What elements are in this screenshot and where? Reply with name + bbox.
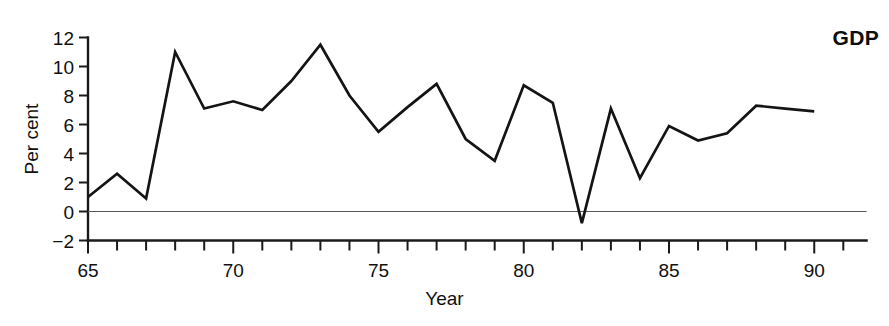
y-axis-tick-labels: −2024681012 (52, 28, 74, 252)
x-tick-label-65: 65 (77, 260, 98, 281)
chart-plot-area: −2024681012 657075808590 (0, 0, 889, 326)
x-axis-tick-labels: 657075808590 (77, 260, 824, 281)
x-tick-label-90: 90 (804, 260, 825, 281)
y-tick-label-6: 6 (63, 115, 74, 136)
x-axis-title: Year (0, 288, 889, 310)
y-tick-label--2: −2 (52, 231, 74, 252)
y-tick-label-4: 4 (63, 144, 74, 165)
series-label-gdp: GDP (833, 26, 879, 50)
gdp-growth-chart-figure: −2024681012 657075808590 GDP Year Per ce… (0, 0, 889, 326)
y-axis-tick-group (79, 38, 88, 241)
y-axis-title: Per cent (21, 79, 43, 199)
x-tick-label-80: 80 (513, 260, 534, 281)
gdp-series-line (88, 45, 814, 223)
y-tick-label-2: 2 (63, 173, 74, 194)
x-tick-label-85: 85 (658, 260, 679, 281)
y-tick-label-12: 12 (53, 28, 74, 49)
x-tick-label-70: 70 (223, 260, 244, 281)
x-tick-label-75: 75 (368, 260, 389, 281)
x-axis-tick-group (88, 241, 843, 254)
y-tick-label-10: 10 (53, 57, 74, 78)
y-tick-label-8: 8 (63, 86, 74, 107)
y-tick-label-0: 0 (63, 202, 74, 223)
